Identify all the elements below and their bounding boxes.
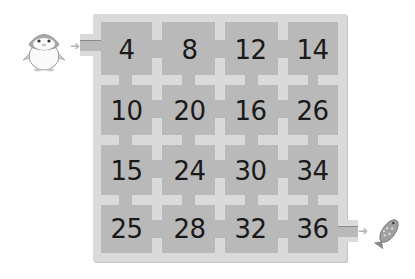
maze-cell[interactable]: 16: [223, 85, 278, 137]
maze-cell[interactable]: 8: [162, 24, 217, 76]
maze-wall: [101, 75, 119, 85]
maze-cell[interactable]: 12: [223, 24, 278, 76]
maze-cell[interactable]: 26: [285, 85, 340, 137]
maze-cell[interactable]: 36: [285, 203, 340, 255]
maze-cell[interactable]: 15: [99, 145, 154, 197]
maze-cell[interactable]: 14: [285, 24, 340, 76]
maze-cell[interactable]: 25: [99, 203, 154, 255]
maze-cell[interactable]: 34: [285, 145, 340, 197]
maze-cell[interactable]: 32: [223, 203, 278, 255]
goal-arrow-icon: ➜: [358, 225, 368, 237]
maze-cell[interactable]: 30: [223, 145, 278, 197]
maze-cell[interactable]: 28: [162, 203, 217, 255]
start-arrow-icon: ➜: [70, 40, 80, 52]
fish-icon: [374, 213, 404, 249]
maze-cell[interactable]: 20: [162, 85, 217, 137]
maze-cell[interactable]: 10: [99, 85, 154, 137]
penguin-icon: [20, 22, 68, 72]
maze-cell[interactable]: 4: [99, 24, 154, 76]
maze-wall: [318, 75, 338, 85]
maze-cell[interactable]: 24: [162, 145, 217, 197]
